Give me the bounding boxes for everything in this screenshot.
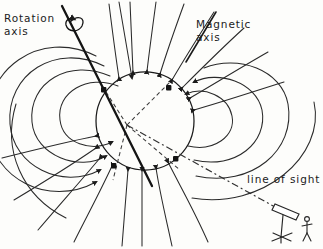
observer-figure-icon	[302, 217, 312, 241]
field-loop-left-5	[12, 104, 66, 218]
field-loop-left-1	[60, 82, 118, 146]
neutron-star-circle	[96, 72, 194, 170]
line-of-sight-label: line of sight	[247, 173, 320, 186]
field-loop-right-3	[196, 63, 289, 178]
field-loop-left-4	[0, 47, 96, 191]
line-of-sight-ray	[127, 125, 284, 212]
diagram-canvas	[0, 0, 323, 249]
magnetic-axis-label-line1: Magnetic	[196, 18, 251, 31]
polar-cap-dots	[101, 85, 178, 168]
pulsar-diagram: Rotation axis Magnetic axis line of sigh…	[0, 0, 323, 249]
magnetic-axis-label-line2: axis	[196, 31, 251, 44]
rotation-axis-label-line2: axis	[4, 25, 55, 38]
rotation-axis-label: Rotation axis	[4, 12, 55, 37]
open-field-lines-south	[2, 136, 208, 246]
field-loop-left-2	[32, 70, 110, 162]
magnetic-axis-label: Magnetic axis	[196, 18, 251, 43]
rotation-axis-line	[62, 6, 152, 186]
field-loop-right-1	[186, 91, 232, 147]
telescope-icon	[272, 204, 299, 243]
rotation-axis-label-line1: Rotation	[4, 12, 55, 25]
